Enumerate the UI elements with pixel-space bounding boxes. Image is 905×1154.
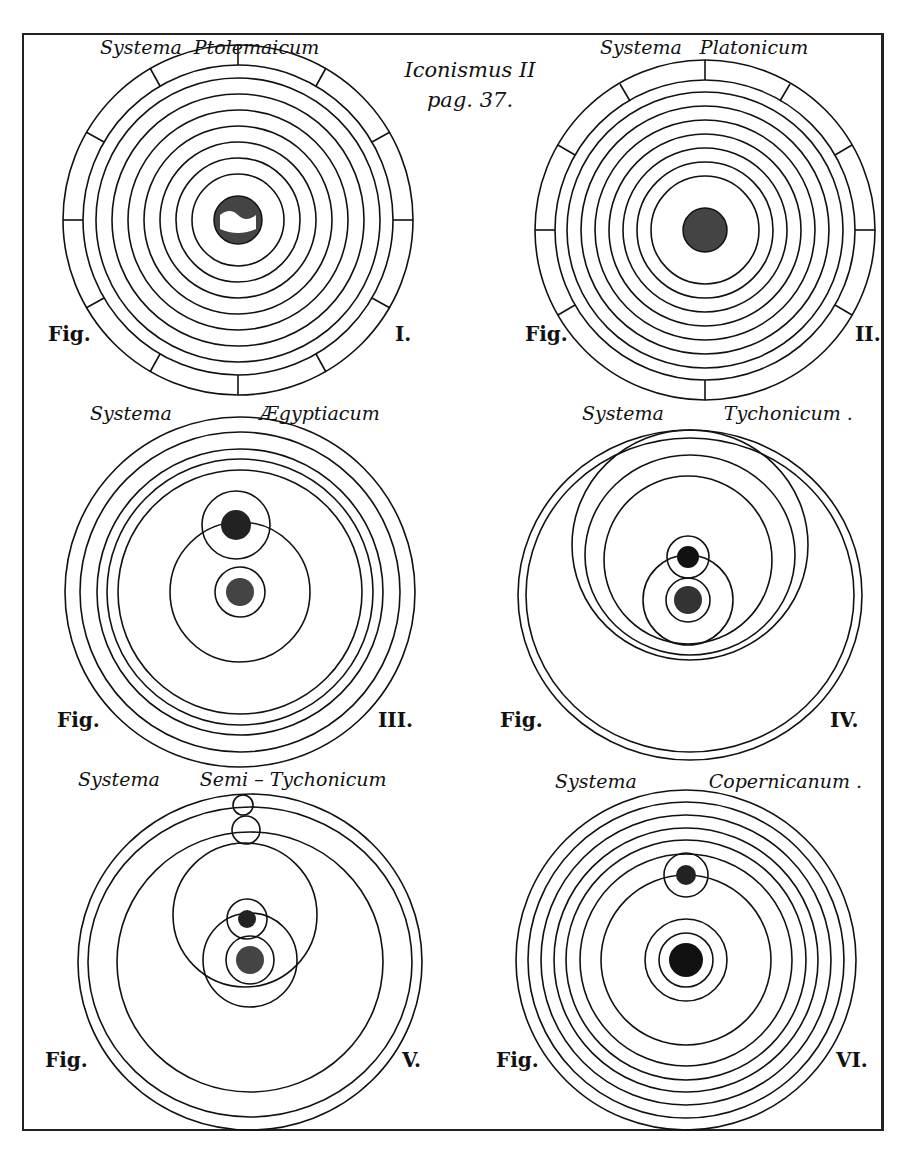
copernican-diagram xyxy=(0,0,905,1154)
fig-number: VI. xyxy=(836,1048,868,1072)
fig-label: Fig. xyxy=(496,1048,539,1072)
